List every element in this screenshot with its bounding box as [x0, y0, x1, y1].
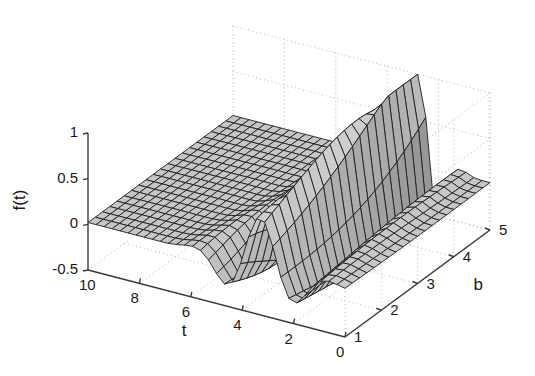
t-tick-label-10: 10	[79, 276, 96, 293]
z-tick-label-neg0_5: -0.5	[0, 260, 78, 277]
b-tick-label-3: 3	[427, 275, 435, 292]
axis-tick-mark	[242, 305, 243, 310]
axis-tick-mark	[83, 224, 88, 225]
axis-tick-mark	[139, 278, 140, 283]
b-tick-label-1: 1	[354, 328, 362, 345]
axis-tick-mark	[345, 332, 346, 337]
axis-tick-mark	[485, 228, 490, 230]
b-tick-label-5: 5	[499, 221, 507, 238]
axis-tick-mark	[376, 308, 381, 310]
b-tick-label-4: 4	[463, 248, 471, 265]
axis-tick-mark	[83, 270, 88, 271]
axis-tick-mark	[191, 292, 192, 297]
z-tick-label-1: 1	[0, 123, 78, 140]
figure-3d-surface-plot: 1 0.5 0 -0.5 10 8 6 4 2 0 1 2 3 4 5 t b …	[0, 0, 535, 376]
axis-tick-mark	[413, 282, 418, 284]
z-tick-label-0: 0	[0, 214, 78, 231]
t-tick-label-8: 8	[130, 289, 138, 306]
t-axis-title: t	[182, 321, 187, 341]
surface-plot-canvas	[0, 0, 535, 376]
axis-tick-mark	[294, 319, 295, 324]
z-axis-title: f(t)	[10, 190, 30, 211]
axis-tick-mark	[83, 179, 88, 180]
axis-tick-mark	[83, 133, 88, 134]
z-tick-label-0_5: 0.5	[0, 169, 78, 186]
axis-tick-mark	[449, 255, 454, 257]
b-tick-label-2: 2	[390, 301, 398, 318]
b-axis-title: b	[473, 275, 482, 295]
surface-mesh-layer	[88, 74, 490, 303]
t-tick-label-2: 2	[285, 330, 293, 347]
t-tick-label-4: 4	[233, 316, 241, 333]
t-tick-label-0: 0	[336, 343, 344, 360]
t-tick-label-6: 6	[182, 303, 190, 320]
